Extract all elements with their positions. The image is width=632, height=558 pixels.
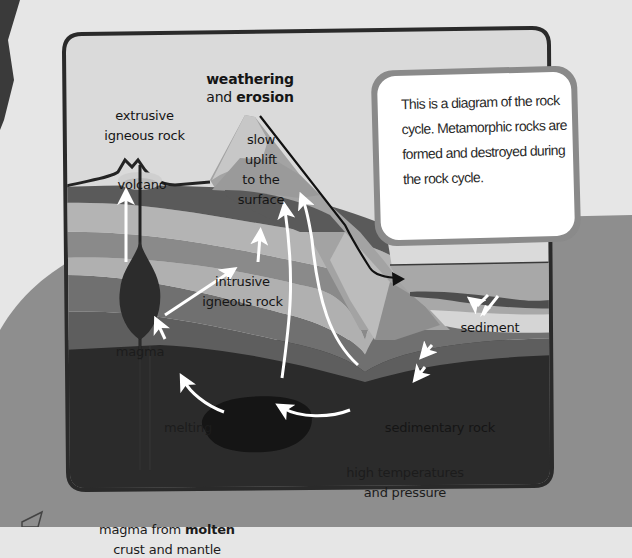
label-intrusive-line2: igneous rock [202, 294, 283, 309]
label-extrusive-line2: igneous rock [104, 128, 185, 143]
label-melting: melting [158, 420, 218, 435]
label-magma-source-line2: crust and mantle [113, 542, 221, 557]
label-erosion: erosion [236, 89, 293, 105]
label-uplift-line4: surface [238, 192, 285, 207]
label-uplift-line1: slow [247, 132, 275, 147]
label-extrusive-igneous-rock: extrusive igneous rock [92, 106, 197, 146]
label-sediment: sediment [455, 320, 525, 335]
label-and: and [206, 89, 232, 105]
label-magma: magma [110, 344, 170, 359]
label-uplift-line2: uplift [245, 152, 277, 167]
label-intrusive-igneous-rock: intrusive igneous rock [195, 272, 290, 312]
label-extrusive-line1: extrusive [115, 108, 173, 123]
label-high-temp-line2: and pressure [364, 485, 446, 500]
label-weathering-erosion: weathering and erosion [205, 70, 295, 106]
label-high-temp-line1: high temperatures [346, 465, 464, 480]
label-magma-source: magma from molten crust and mantle [92, 520, 242, 558]
label-magma-source-bold: molten [185, 522, 235, 537]
label-volcano: volcano [107, 177, 177, 192]
label-magma-source-pre: magma from [99, 522, 181, 537]
label-weathering: weathering [206, 71, 294, 87]
label-intrusive-line1: intrusive [215, 274, 270, 289]
label-uplift-line3: to the [242, 172, 279, 187]
info-callout-text: This is a diagram of the rock cycle. Met… [401, 88, 572, 192]
label-high-temperatures-pressure: high temperatures and pressure [340, 463, 470, 503]
label-sedimentary-rock: sedimentary rock [380, 420, 500, 435]
label-slow-uplift: slow uplift to the surface [226, 130, 296, 210]
